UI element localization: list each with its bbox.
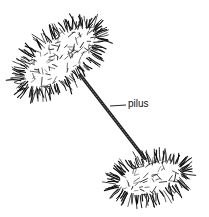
pilus-bridge: [78, 72, 146, 160]
recipient-bacterium: [98, 140, 201, 217]
diagram-svg: [0, 0, 209, 217]
pilus-label: pilus: [128, 99, 149, 109]
diagram-canvas: pilus: [0, 0, 209, 217]
donor-bacterium: [0, 0, 127, 122]
pilus-leader-line: [110, 105, 126, 106]
